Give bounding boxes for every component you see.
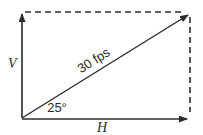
vertical-component-label: V [8, 56, 18, 71]
angle-label: 25° [47, 100, 67, 115]
horizontal-component-label: H [96, 120, 108, 135]
vector-diagram: V H 30 fps 25° [0, 0, 203, 135]
vector-diagram-svg: V H 30 fps 25° [0, 0, 203, 135]
vector-magnitude-label: 30 fps [75, 44, 113, 76]
